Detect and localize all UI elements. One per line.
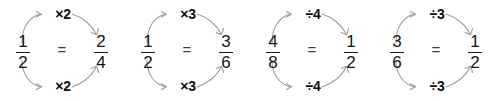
left-denominator: 8: [268, 54, 277, 72]
bottom-operation-label-2: ×3: [168, 78, 208, 94]
right-numerator: 3: [221, 33, 230, 51]
left-numerator: 1: [143, 33, 152, 51]
top-operation-label-1: ×2: [43, 6, 83, 22]
right-numerator: 1: [346, 33, 355, 51]
left-numerator: 1: [18, 33, 27, 51]
right-numerator: 1: [470, 33, 479, 51]
right-denominator: 6: [221, 54, 230, 72]
left-fraction-4: 3 6: [384, 31, 410, 73]
fraction-equation-group-2: 1 2 = 3 6 ×3 ×3: [125, 0, 250, 101]
top-operation-label-3: ÷4: [293, 6, 333, 22]
equals-sign-3: =: [300, 40, 324, 60]
left-denominator: 2: [143, 54, 152, 72]
left-denominator: 6: [392, 54, 401, 72]
bottom-operation-label-3: ÷4: [293, 78, 333, 94]
top-operation-label-4: ÷3: [417, 6, 457, 22]
equals-sign-4: =: [424, 40, 448, 60]
fraction-equation-group-1: 1 2 = 2 4 ×2 ×2: [0, 0, 125, 101]
right-fraction-2: 3 6: [213, 31, 239, 73]
right-fraction-4: 1 2: [462, 31, 488, 73]
equals-sign-1: =: [50, 40, 74, 60]
left-numerator: 3: [392, 33, 401, 51]
bottom-operation-label-4: ÷3: [417, 78, 457, 94]
fraction-equation-group-4: 3 6 = 1 2 ÷3 ÷3: [374, 0, 499, 101]
right-denominator: 4: [96, 54, 105, 72]
right-denominator: 2: [346, 54, 355, 72]
right-numerator: 2: [96, 33, 105, 51]
equivalent-fractions-worksheet: 1 2 = 2 4 ×2 ×2 1: [0, 0, 499, 101]
bottom-operation-label-1: ×2: [43, 78, 83, 94]
left-fraction-3: 4 8: [260, 31, 286, 73]
left-numerator: 4: [268, 33, 277, 51]
equals-sign-2: =: [175, 40, 199, 60]
left-fraction-1: 1 2: [10, 31, 36, 73]
right-denominator: 2: [470, 54, 479, 72]
left-fraction-2: 1 2: [135, 31, 161, 73]
fraction-equation-group-3: 4 8 = 1 2 ÷4 ÷4: [250, 0, 375, 101]
left-denominator: 2: [18, 54, 27, 72]
right-fraction-3: 1 2: [338, 31, 364, 73]
top-operation-label-2: ×3: [168, 6, 208, 22]
right-fraction-1: 2 4: [88, 31, 114, 73]
